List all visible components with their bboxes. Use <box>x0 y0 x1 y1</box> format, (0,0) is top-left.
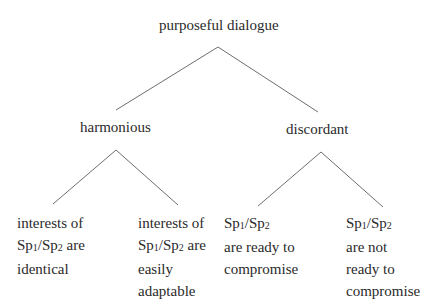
leaf-line: are ready to <box>224 236 298 258</box>
edge-harmonious-identical <box>53 150 116 204</box>
leaf-interests-identical: interests of Sp1/Sp2 are identical <box>17 212 85 280</box>
leaf-line: ready to <box>346 258 420 280</box>
root-node-label: purposeful dialogue <box>159 16 279 35</box>
harmonious-node-label: harmonious <box>80 118 151 137</box>
leaf-line: easily <box>138 258 206 280</box>
edge-discordant-ready <box>258 152 321 206</box>
leaf-line: interests of <box>17 212 85 234</box>
leaf-line: adaptable <box>138 280 206 302</box>
leaf-line: interests of <box>138 212 206 234</box>
leaf-line: compromise <box>224 258 298 280</box>
leaf-line: are not <box>346 236 420 258</box>
edge-root-harmonious <box>116 47 218 110</box>
leaf-not-ready-to-compromise: Sp1/Sp2 are not ready to compromise <box>346 212 420 302</box>
leaf-line: Sp1/Sp2 <box>346 212 420 236</box>
edge-discordant-not-ready <box>321 152 383 207</box>
leaf-interests-adaptable: interests of Sp1/Sp2 are easily adaptabl… <box>138 212 206 302</box>
leaf-line: identical <box>17 258 85 280</box>
leaf-line: Sp1/Sp2 are <box>138 234 206 258</box>
leaf-line: Sp1/Sp2 are <box>17 234 85 258</box>
discordant-node-label: discordant <box>286 120 348 139</box>
edge-harmonious-adaptable <box>116 150 178 205</box>
leaf-ready-to-compromise: Sp1/Sp2 are ready to compromise <box>224 212 298 280</box>
leaf-line: compromise <box>346 280 420 302</box>
edge-root-discordant <box>218 47 318 112</box>
leaf-line: Sp1/Sp2 <box>224 212 298 236</box>
